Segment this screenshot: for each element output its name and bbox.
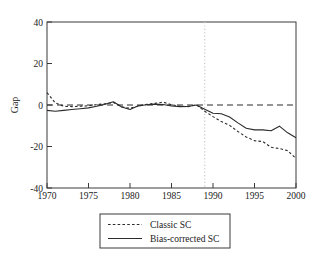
x-tick-1970: 1970 (38, 191, 57, 201)
legend-label-classic-sc: Classic SC (150, 220, 191, 230)
x-tick-1985: 1985 (162, 191, 181, 201)
y-tick-0: 0 (38, 101, 43, 111)
x-axis-labels: 1970 1975 1980 1985 1990 1995 2000 (38, 191, 306, 201)
y-tick-20: 20 (34, 59, 44, 69)
x-tick-1990: 1990 (204, 191, 223, 201)
x-tick-1975: 1975 (79, 191, 98, 201)
y-axis-title: Gap (9, 97, 20, 114)
series-bias-corrected-sc (47, 102, 296, 138)
chart-legend: Classic SC Bias-corrected SC (100, 214, 230, 248)
series-classic-sc (47, 93, 296, 159)
chart-figure: 40 20 0 -20 -40 1970 1975 1980 1985 1990… (0, 0, 316, 262)
y-tick-40: 40 (34, 18, 44, 28)
legend-label-bias-corrected-sc: Bias-corrected SC (150, 234, 219, 244)
gap-line-chart: 40 20 0 -20 -40 1970 1975 1980 1985 1990… (0, 0, 316, 262)
y-tick-neg20: -20 (30, 142, 43, 152)
y-axis-labels: 40 20 0 -20 -40 (30, 18, 43, 194)
x-tick-1980: 1980 (121, 191, 140, 201)
x-tick-2000: 2000 (287, 191, 306, 201)
cut-off-caption-strip (0, 254, 316, 262)
x-tick-marks (47, 183, 296, 188)
x-tick-1995: 1995 (245, 191, 264, 201)
